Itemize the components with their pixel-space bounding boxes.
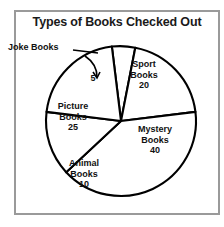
label-joke-books-value: 5 (86, 73, 100, 84)
chart-page: Types of Books Checked Out Joke Books 5 … (0, 0, 224, 227)
label-joke-books-text: Joke Books (8, 42, 59, 52)
animal-books-value: 10 (60, 179, 108, 190)
picture-books-value: 25 (48, 122, 98, 133)
label-animal-books-line2: Books (60, 169, 108, 180)
label-picture-books-line2: Books (48, 112, 98, 123)
label-mystery-books-line1: Mystery (138, 124, 172, 134)
joke-books-value: 5 (86, 73, 100, 84)
label-mystery-books: Mystery Books 40 (129, 124, 181, 156)
label-animal-books: Animal Books 10 (60, 158, 108, 190)
mystery-books-value: 40 (129, 145, 181, 156)
label-joke-books: Joke Books (8, 42, 59, 53)
sport-books-value: 20 (120, 80, 168, 91)
pie-chart-graphic (0, 0, 224, 227)
label-picture-books-line1: Picture (58, 101, 89, 111)
label-mystery-books-line2: Books (129, 135, 181, 146)
label-picture-books: Picture Books 25 (48, 101, 98, 133)
label-sport-books: Sport Books 20 (120, 59, 168, 91)
label-sport-books-line2: Books (120, 70, 168, 81)
label-animal-books-line1: Animal (69, 158, 99, 168)
label-sport-books-line1: Sport (132, 59, 156, 69)
